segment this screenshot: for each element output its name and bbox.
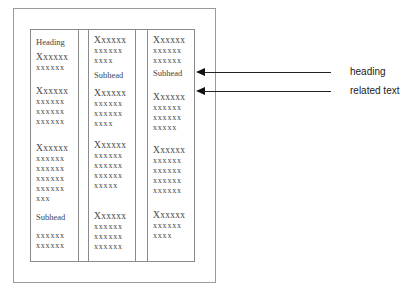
text-block: Xxxxxxxxxxxxxxxxxxxxxxx bbox=[153, 92, 194, 133]
text-line: xxxxxx bbox=[153, 176, 194, 186]
column-1: HeadingXxxxxxxxxxxxXxxxxxxxxxxxxxxxxxxxx… bbox=[30, 29, 79, 262]
text-line: Xxxxxx bbox=[94, 35, 135, 46]
text-line: xxxxxx bbox=[94, 171, 135, 181]
heading-text: Subhead bbox=[94, 70, 135, 81]
text-line: xxxxxx bbox=[94, 109, 135, 119]
text-line: xxxx bbox=[153, 231, 194, 241]
text-block: Xxxxxxxxxxxxxxxxxxxxxxxxxxxxxxxxx bbox=[36, 143, 78, 204]
heading-text: Subhead bbox=[153, 68, 194, 79]
text-line: xxxxxx bbox=[94, 161, 135, 171]
text-line: Xxxxxx bbox=[153, 210, 194, 221]
text-line: xxxxxx bbox=[36, 241, 78, 251]
text-block: Xxxxxxxxxxxxxxxxxx bbox=[153, 35, 194, 66]
text-line: xxxxxx bbox=[36, 184, 78, 194]
text-line: xxxx bbox=[94, 56, 135, 66]
text-block: xxxxxxxxxxxx bbox=[36, 231, 78, 251]
subhead: Heading bbox=[36, 37, 78, 48]
text-block: Xxxxxxxxxxxx bbox=[36, 52, 78, 73]
text-line: xxxxx bbox=[94, 181, 135, 191]
text-line: xxxxxx bbox=[36, 107, 78, 117]
arrow-heading-line bbox=[204, 72, 331, 73]
label-heading: heading bbox=[350, 66, 386, 77]
text-line: xxx bbox=[36, 194, 78, 204]
text-block: Xxxxxxxxxxxxxxxxxxxxxxxxxxxxxx bbox=[153, 145, 194, 196]
text-line: Xxxxxx bbox=[94, 88, 135, 99]
text-block: Xxxxxxxxxxxxxxxxxxxxxx bbox=[94, 88, 135, 129]
text-line: xxxxxx bbox=[36, 174, 78, 184]
column-3: XxxxxxxxxxxxxxxxxxSubheadXxxxxxxxxxxxxxx… bbox=[147, 29, 195, 262]
text-line: Xxxxxx bbox=[36, 52, 78, 63]
text-line: xxxxxx bbox=[153, 113, 194, 123]
heading-text: Subhead bbox=[36, 212, 78, 223]
text-line: xxxxxx bbox=[36, 117, 78, 127]
text-line: Xxxxxx bbox=[153, 35, 194, 46]
text-line: xxxxxx bbox=[94, 99, 135, 109]
text-line: Xxxxxx bbox=[94, 140, 135, 151]
text-line: xxxxxx bbox=[153, 56, 194, 66]
subhead: Subhead bbox=[94, 70, 135, 81]
text-block: Xxxxxxxxxxxxxxxx bbox=[94, 35, 135, 66]
text-line: Xxxxxx bbox=[153, 145, 194, 156]
text-line: xxxxxx bbox=[153, 166, 194, 176]
text-line: xxxxxx bbox=[153, 156, 194, 166]
text-line: xxxxxx bbox=[94, 242, 135, 252]
heading-text: Heading bbox=[36, 37, 78, 48]
text-block: Xxxxxxxxxxxxxxxxxxxxxxxx bbox=[36, 86, 78, 127]
text-line: xxxxx bbox=[153, 123, 194, 133]
label-related-text: related text bbox=[350, 85, 399, 96]
text-line: xxxxxx bbox=[36, 63, 78, 73]
text-line: xxxxxx bbox=[36, 164, 78, 174]
text-line: xxxxxx bbox=[153, 46, 194, 56]
text-line: xxxxxx bbox=[94, 222, 135, 232]
text-block: Xxxxxxxxxxxxxxxxxxxxxxxxxxxxx bbox=[94, 140, 135, 191]
text-line: Xxxxxx bbox=[94, 211, 135, 222]
subhead: Subhead bbox=[153, 68, 194, 79]
text-line: xxxxxx bbox=[94, 151, 135, 161]
subhead: Subhead bbox=[36, 212, 78, 223]
arrow-related-text-line bbox=[204, 91, 331, 92]
text-line: xxxxxx bbox=[36, 231, 78, 241]
text-block: Xxxxxxxxxxxxxxxx bbox=[153, 210, 194, 241]
text-line: xxxxxx bbox=[153, 186, 194, 196]
text-line: xxxxxx bbox=[153, 221, 194, 231]
text-line: xxxxxx bbox=[36, 97, 78, 107]
text-line: xxxxxx bbox=[94, 232, 135, 242]
text-line: Xxxxxx bbox=[153, 92, 194, 103]
text-line: Xxxxxx bbox=[36, 143, 78, 154]
text-line: xxxx bbox=[94, 119, 135, 129]
text-line: Xxxxxx bbox=[36, 86, 78, 97]
text-block: Xxxxxxxxxxxxxxxxxxxxxxxx bbox=[94, 211, 135, 252]
text-line: xxxxxx bbox=[94, 46, 135, 56]
text-line: xxxxxx bbox=[36, 154, 78, 164]
text-line: xxxxxx bbox=[153, 103, 194, 113]
column-2: XxxxxxxxxxxxxxxxSubheadXxxxxxxxxxxxxxxxx… bbox=[88, 29, 136, 262]
